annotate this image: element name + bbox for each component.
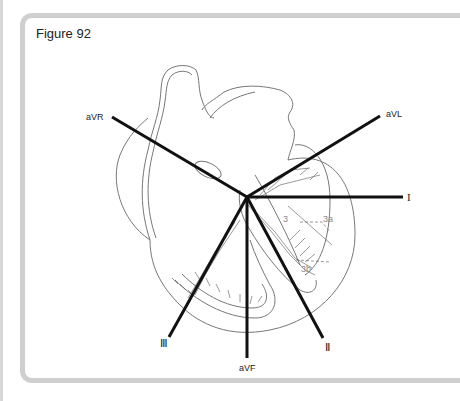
conduction-label-3b: 3b [301,264,311,274]
conduction-label-3a: 3a [323,214,333,224]
lead-label-avr: aVR [86,112,104,122]
lead-line-avl [247,116,380,197]
lead-label-iii: Ⅲ [160,337,168,349]
lead-label-avf: aVF [239,363,256,373]
conduction-label-3: 3 [283,214,288,224]
lead-label-avl: aVL [386,109,402,119]
heart-outline [116,66,355,333]
lead-line-avr [112,117,247,197]
lead-label-i: I [407,191,411,203]
purkinje-fibers [172,168,332,304]
lead-label-ii: Ⅱ [325,341,330,353]
